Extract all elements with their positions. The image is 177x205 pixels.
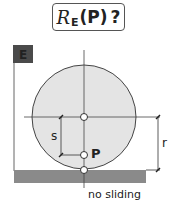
point-p-label: P <box>91 146 101 161</box>
contact-point <box>81 167 88 174</box>
frame-badge-label: E <box>19 48 27 62</box>
ground <box>14 170 146 183</box>
s-label: s <box>51 129 57 143</box>
rolling-disk-diagram: E s r P no sliding <box>0 0 177 205</box>
ground-label: no sliding <box>88 188 141 201</box>
point-p <box>81 152 88 159</box>
center-point <box>81 114 88 121</box>
r-label: r <box>162 136 167 150</box>
